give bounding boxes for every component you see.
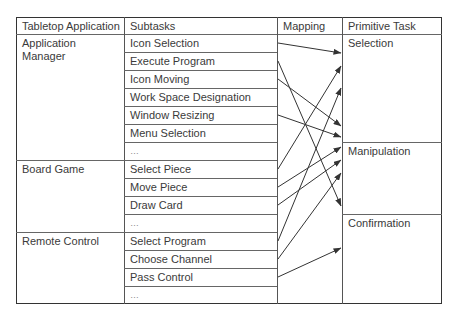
- mapping-arrow: [278, 79, 341, 126]
- mapping-arrows: [0, 0, 464, 319]
- mapping-arrow: [278, 88, 341, 241]
- mapping-arrow: [278, 173, 341, 259]
- mapping-arrow: [278, 248, 341, 277]
- mapping-arrow: [278, 43, 341, 53]
